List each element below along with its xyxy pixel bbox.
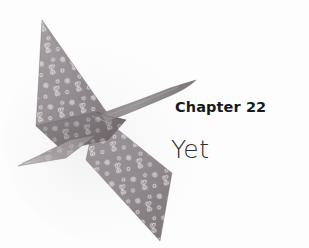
chapter-title: Yet — [171, 137, 209, 162]
book-chapter-page: Chapter 22 Yet — [0, 0, 309, 248]
origami-crane-illustration — [0, 0, 309, 248]
chapter-number-heading: Chapter 22 — [175, 100, 266, 115]
